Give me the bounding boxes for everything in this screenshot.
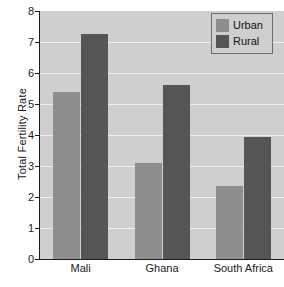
bar-rural-ghana [163,85,190,259]
legend-label-urban: Urban [233,19,263,32]
legend-swatch-urban [216,19,229,32]
y-tick-mark [35,73,40,74]
y-tick-mark [35,197,40,198]
x-tick-label: Mali [71,262,91,274]
bar-urban-south-africa [216,186,243,259]
y-tick-mark [35,259,40,260]
y-tick-mark [35,42,40,43]
legend-swatch-rural [216,35,229,48]
x-tick-label: Ghana [145,262,178,274]
bar-urban-ghana [135,163,162,259]
y-tick-mark [35,135,40,136]
legend-item-rural: Rural [216,34,268,49]
y-tick-label: 2 [0,191,34,203]
y-tick-label: 3 [0,160,34,172]
y-axis-tick-labels: 8 7 6 5 4 3 2 1 0 [0,0,34,287]
legend-item-urban: Urban [216,18,268,33]
y-tick-label: 1 [0,222,34,234]
y-tick-mark [35,228,40,229]
y-tick-label: 7 [0,36,34,48]
y-tick-mark [35,104,40,105]
bar-urban-mali [53,92,80,259]
x-axis-tick-labels: Mali Ghana South Africa [40,262,284,284]
y-tick-label: 4 [0,129,34,141]
y-tick-label: 0 [0,253,34,265]
y-tick-label: 5 [0,98,34,110]
x-tick-label: South Africa [214,262,273,274]
gridline [40,73,284,74]
y-tick-label: 8 [0,5,34,17]
y-tick-mark [35,11,40,12]
bar-rural-south-africa [244,137,271,259]
y-tick-mark [35,166,40,167]
legend-label-rural: Rural [233,35,259,48]
bar-chart: Total Fertility Rate 8 7 6 5 4 3 2 1 0 M… [0,0,284,287]
y-tick-label: 6 [0,67,34,79]
legend: Urban Rural [211,13,273,54]
bar-rural-mali [81,34,108,259]
x-axis-line [39,259,284,260]
